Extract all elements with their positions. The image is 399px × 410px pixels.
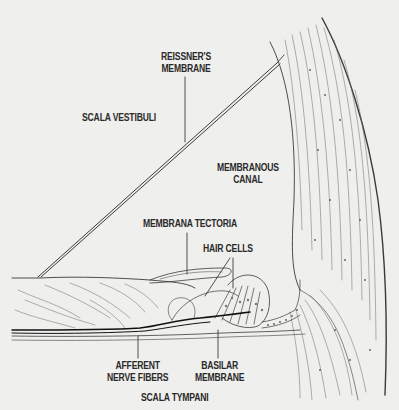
label-line: REISSNER'S <box>161 51 211 63</box>
label-line: SCALA VESTIBULI <box>82 112 156 124</box>
afferent-nerve-fibers <box>12 312 250 333</box>
label-line: NERVE FIBERS <box>107 372 168 384</box>
label-line: SCALA TYMPANI <box>141 392 209 404</box>
label-line: MEMBRANOUS <box>217 162 279 174</box>
label-line: MEMBRANA TECTORIA <box>143 218 237 230</box>
label-line: AFFERENT <box>107 360 168 372</box>
label-line: MEMBRANE <box>161 63 211 75</box>
spiral-limbus <box>12 277 195 328</box>
label-scala-tympani: SCALA TYMPANI <box>141 392 209 404</box>
label-line: BASILAR <box>195 360 244 372</box>
basilar-membrane <box>12 330 305 340</box>
spiral-ligament <box>270 18 386 400</box>
label-hair-cells: HAIR CELLS <box>203 243 253 255</box>
label-reissners-membrane: REISSNER'S MEMBRANE <box>161 51 211 75</box>
label-basilar-membrane: BASILAR MEMBRANE <box>195 360 244 384</box>
cochlea-diagram: REISSNER'S MEMBRANE SCALA VESTIBULI MEMB… <box>0 0 399 410</box>
label-scala-vestibuli: SCALA VESTIBULI <box>82 112 156 124</box>
label-membrana-tectoria: MEMBRANA TECTORIA <box>143 218 237 230</box>
label-membranous-canal: MEMBRANOUS CANAL <box>217 162 279 186</box>
label-afferent-nerve-fibers: AFFERENT NERVE FIBERS <box>107 360 168 384</box>
label-line: MEMBRANE <box>195 372 244 384</box>
label-line: HAIR CELLS <box>203 243 253 255</box>
label-line: CANAL <box>217 174 279 186</box>
